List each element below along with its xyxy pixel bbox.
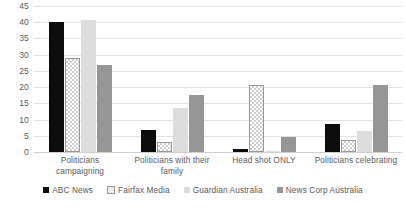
bar[interactable]	[373, 85, 388, 152]
bar[interactable]	[49, 22, 64, 152]
legend-swatch-icon	[107, 186, 115, 194]
legend-item[interactable]: ABC News	[43, 186, 93, 194]
legend-label: Guardian Australia	[193, 186, 263, 194]
bar[interactable]	[249, 85, 264, 152]
bar[interactable]	[173, 108, 188, 152]
bars-layer	[34, 6, 402, 152]
bar[interactable]	[281, 137, 296, 152]
bar[interactable]	[265, 151, 280, 152]
bar[interactable]	[325, 124, 340, 152]
chart-legend: ABC NewsFairfax MediaGuardian AustraliaN…	[0, 186, 406, 194]
bar[interactable]	[189, 95, 204, 152]
axis-baseline	[34, 152, 402, 153]
legend-item[interactable]: Guardian Australia	[184, 186, 263, 194]
category-label: Head shot ONLY	[218, 155, 310, 183]
y-axis-tick-label: 30	[19, 50, 29, 59]
y-axis-tick-label: 40	[19, 18, 29, 27]
bar-group	[34, 6, 126, 152]
legend-label: Fairfax Media	[118, 186, 170, 194]
y-axis-tick-label: 10	[19, 115, 29, 124]
y-axis-tick-label: 45	[19, 2, 29, 11]
category-axis-labels: Politicians campaigningPoliticians with …	[34, 155, 402, 183]
legend-label: News Corp Australia	[286, 186, 363, 194]
bar[interactable]	[65, 58, 80, 152]
bar-group	[310, 6, 402, 152]
bar[interactable]	[81, 20, 96, 152]
y-axis-tick-label: 5	[24, 132, 29, 141]
legend-item[interactable]: Fairfax Media	[107, 186, 170, 194]
legend-swatch-icon	[43, 187, 49, 193]
plot-area	[34, 6, 402, 152]
y-axis-tick-label: 0	[24, 148, 29, 157]
legend-swatch-icon	[184, 187, 190, 193]
bar-chart: 454035302520151050 Politicians campaigni…	[0, 0, 406, 213]
y-axis-tick-label: 25	[19, 67, 29, 76]
y-axis-tick-label: 20	[19, 83, 29, 92]
bar-group	[126, 6, 218, 152]
y-axis: 454035302520151050	[0, 6, 34, 152]
bar[interactable]	[357, 131, 372, 152]
category-label: Politicians campaigning	[34, 155, 126, 183]
bar[interactable]	[341, 140, 356, 152]
bar[interactable]	[157, 142, 172, 152]
y-axis-tick-label: 15	[19, 99, 29, 108]
legend-swatch-icon	[277, 187, 283, 193]
bar-group	[218, 6, 310, 152]
plot-wrapper: 454035302520151050	[0, 6, 406, 152]
bar[interactable]	[141, 130, 156, 152]
category-label: Politicians with their family	[126, 155, 218, 183]
category-label: Politicians celebrating	[310, 155, 402, 183]
y-axis-tick-label: 35	[19, 34, 29, 43]
bar[interactable]	[233, 149, 248, 152]
legend-label: ABC News	[52, 186, 93, 194]
legend-item[interactable]: News Corp Australia	[277, 186, 363, 194]
bar[interactable]	[97, 65, 112, 152]
